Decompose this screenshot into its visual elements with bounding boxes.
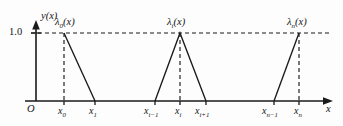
peak-label-lambda-n: λn(x) [287,17,307,28]
x-axis-label: x [326,104,331,115]
x-tick-label-xi: xi [175,106,181,116]
x-tick-label-x0: x0 [58,106,66,116]
x-tick-label-xi-plus-1: xi+1 [195,106,209,116]
x-tick-label-x1: x1 [89,106,97,116]
curve-lambda-n [274,33,299,101]
hat-function-figure: y(x) x 1.0 O λ0(x) λi(x) λn(x) x0 x1 xi−… [0,0,343,126]
peak-label-lambda-i: λi(x) [167,17,185,28]
x-tick-label-xn-minus-1: xn−1 [262,106,278,116]
curve-lambda-0 [64,33,95,101]
x-tick-label-xi-sub: i [179,111,181,118]
x-tick-label-xi-minus-1: xi−1 [144,106,158,116]
x-tick-label-xi-plus-1-sub: i+1 [199,111,209,118]
x-tick-label-xn: xn [294,106,302,116]
peak-label-lambda-i-suffix: (x) [174,16,186,27]
x-tick-label-xn-minus-1-sub: n−1 [266,111,277,118]
peak-label-lambda-n-suffix: (x) [295,16,307,27]
y-tick-label-1: 1.0 [9,27,22,38]
x-tick-label-x0-sub: 0 [62,111,65,118]
peak-label-lambda-0-suffix: (x) [63,16,75,27]
x-tick-label-xi-minus-1-sub: i−1 [148,111,158,118]
x-tick-label-xn-sub: n [298,111,301,118]
origin-label: O [27,104,35,115]
peak-label-lambda-0: λ0(x) [55,17,75,28]
y-axis-arrow-icon [32,20,40,30]
x-tick-label-x1-sub: 1 [93,111,96,118]
